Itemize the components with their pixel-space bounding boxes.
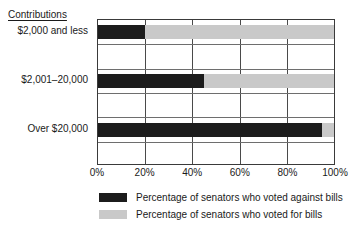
x-tick-label: 20% [135,167,155,179]
chart-plot-inner [98,20,334,164]
x-axis-tick-group: 0%20%40%60%80%100% [97,167,335,181]
bar-group [98,25,334,39]
row-separator [98,117,334,118]
bar-segment [204,74,334,88]
x-tick-label: 100% [322,167,348,179]
x-tick-label: 80% [277,167,297,179]
bar-group [98,123,334,137]
legend-swatch [99,210,127,219]
category-label: $2,001–20,000 [21,74,88,86]
x-tick-label: 40% [182,167,202,179]
legend-item: Percentage of senators who voted against… [99,190,351,205]
chart-legend: Percentage of senators who voted against… [99,190,351,224]
bar-segment [98,74,204,88]
x-tick-label: 60% [230,167,250,179]
legend-label: Percentage of senators who voted for bil… [136,209,322,221]
bar-segment [98,123,322,137]
bar-segment [145,25,334,39]
row-separator [98,44,334,45]
legend-item: Percentage of senators who voted for bil… [99,207,351,222]
category-label: $2,000 and less [17,25,88,37]
bar-group [98,74,334,88]
category-label: Over $20,000 [27,123,88,135]
row-separator [98,69,334,70]
bar-segment [322,123,334,137]
category-label-group: $2,000 and less$2,001–20,000Over $20,000 [0,14,92,169]
chart-plot-area [97,19,335,165]
legend-swatch [99,193,127,202]
bar-segment [98,25,145,39]
legend-label: Percentage of senators who voted against… [136,192,343,204]
x-tick-label: 0% [90,167,104,179]
row-separator [98,93,334,94]
row-separator [98,142,334,143]
